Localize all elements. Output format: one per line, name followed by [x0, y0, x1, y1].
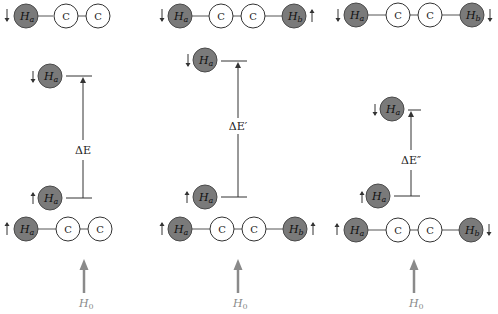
atom-label: C	[64, 224, 72, 235]
field-label: H0	[232, 297, 248, 311]
atom-label: C	[218, 224, 226, 235]
spin-down-icon	[373, 104, 378, 116]
spin-down-icon	[488, 9, 493, 22]
spin-down-icon	[487, 224, 492, 236]
panel-1: Ha C C Ha ΔE Ha	[5, 4, 113, 311]
top-molecule: Ha C C Hb	[336, 3, 493, 27]
atom-label: C	[426, 225, 434, 236]
bottom-molecule: Ha C C Hb	[160, 217, 316, 241]
spin-down-icon	[31, 71, 36, 83]
energy-gap-label: ΔE	[75, 144, 91, 157]
spin-up-icon	[160, 222, 165, 235]
energy-gap-label: ΔE″	[401, 154, 421, 167]
atom-label: C	[249, 11, 257, 22]
panel-2: Ha C C Hb Ha ΔE′	[160, 4, 316, 311]
coupling-diagram: Ha C C Ha ΔE Ha	[0, 0, 498, 314]
panel-3: Ha C C Hb Ha ΔE″	[335, 3, 493, 311]
spin-down-icon	[5, 9, 10, 22]
atom-label: C	[96, 224, 104, 235]
bottom-molecule: Ha C C	[5, 217, 113, 241]
spin-down-icon	[160, 9, 165, 22]
atom-label: C	[426, 10, 434, 21]
atom-label: C	[62, 11, 70, 22]
atom-label: C	[394, 10, 402, 21]
magnetic-field-arrow	[234, 259, 243, 293]
field-label: H0	[78, 297, 94, 311]
bottom-molecule: Ha C C Hb	[335, 218, 492, 242]
upper-energy-level: Ha	[373, 97, 422, 121]
atom-label: C	[394, 225, 402, 236]
spin-up-icon	[360, 191, 365, 203]
energy-gap-label: ΔE′	[229, 120, 248, 133]
top-molecule: Ha C C Hb	[160, 4, 315, 28]
magnetic-field-arrow	[80, 259, 89, 293]
spin-up-icon	[185, 191, 190, 203]
spin-up-icon	[335, 223, 340, 235]
atom-label: C	[250, 224, 258, 235]
spin-up-icon	[31, 192, 36, 204]
spin-up-icon	[5, 222, 10, 235]
spin-down-icon	[336, 9, 341, 22]
spin-up-icon	[310, 9, 315, 22]
atom-label: C	[94, 11, 102, 22]
spin-up-icon	[311, 222, 316, 235]
magnetic-field-arrow	[410, 259, 419, 293]
spin-down-icon	[186, 54, 191, 67]
atom-label: C	[217, 11, 225, 22]
field-label: H0	[408, 297, 424, 311]
top-molecule: Ha C C	[5, 4, 111, 28]
